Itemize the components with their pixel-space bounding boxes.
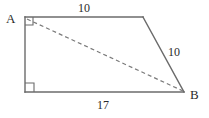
length-label-bottom: 17	[97, 99, 109, 111]
geometry-figure: A B 10 10 17	[0, 0, 209, 118]
length-label-top: 10	[78, 2, 90, 14]
right-angle-marker-bottom-left	[25, 83, 34, 92]
vertex-label-a: A	[6, 12, 15, 25]
right-angle-marker-a	[25, 17, 33, 25]
length-label-right: 10	[168, 46, 180, 58]
diagonal-dashed-ab	[27, 19, 183, 91]
vertex-label-b: B	[190, 88, 199, 101]
